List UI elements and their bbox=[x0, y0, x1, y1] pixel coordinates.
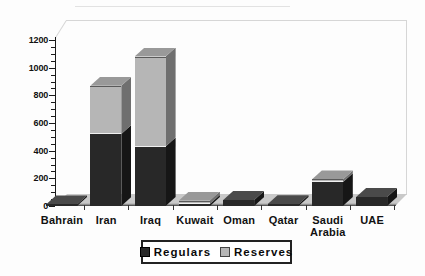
y-minor-tick bbox=[51, 82, 55, 83]
bar-iraq-reserves-front bbox=[135, 57, 166, 147]
y-tick-label: 1000 bbox=[9, 63, 48, 73]
y-minor-tick bbox=[51, 158, 55, 159]
x-category-tick bbox=[217, 205, 218, 210]
y-minor-tick bbox=[51, 116, 55, 117]
bar-kuwait-regulars-front bbox=[179, 204, 210, 206]
bar-iran-reserves-side bbox=[121, 77, 131, 134]
legend-item-reserves: Reserves bbox=[220, 246, 293, 258]
x-category-tick bbox=[306, 205, 307, 210]
y-major-tick bbox=[49, 40, 55, 41]
y-minor-tick bbox=[51, 165, 55, 166]
bar-oman-regulars-front bbox=[223, 200, 254, 206]
bar-bahrain-regulars-front bbox=[46, 204, 77, 206]
plot-area: 020040060080010001200BahrainIranIraqKuwa… bbox=[0, 0, 425, 276]
x-category-tick bbox=[394, 205, 395, 210]
legend-label-reserves: Reserves bbox=[234, 246, 293, 258]
y-major-tick bbox=[49, 68, 55, 69]
y-major-tick bbox=[49, 206, 55, 207]
y-minor-tick bbox=[51, 137, 55, 138]
legend-item-regulars: Regulars bbox=[140, 246, 211, 258]
y-tick-label: 600 bbox=[9, 118, 48, 128]
bar-iraq-regulars-side bbox=[166, 138, 176, 206]
y-minor-tick bbox=[51, 171, 55, 172]
y-major-tick bbox=[49, 95, 55, 96]
y-minor-tick bbox=[51, 61, 55, 62]
y-minor-tick bbox=[51, 47, 55, 48]
y-minor-tick bbox=[51, 192, 55, 193]
x-label-uae: UAE bbox=[342, 214, 402, 226]
y-minor-tick bbox=[51, 185, 55, 186]
reserves-swatch-icon bbox=[220, 247, 230, 257]
bar-qatar-regulars-front bbox=[268, 204, 299, 206]
y-minor-tick bbox=[51, 144, 55, 145]
bar-uae-regulars-front bbox=[356, 197, 387, 206]
bar-iran-regulars-side bbox=[121, 125, 131, 206]
y-minor-tick bbox=[51, 109, 55, 110]
stacked-bar-chart-figure: 020040060080010001200BahrainIranIraqKuwa… bbox=[0, 0, 425, 276]
y-tick-label: 200 bbox=[9, 173, 48, 183]
x-category-tick bbox=[350, 205, 351, 210]
bar-iran-reserves-front bbox=[90, 86, 121, 134]
legend-label-regulars: Regulars bbox=[154, 246, 211, 258]
y-minor-tick bbox=[51, 88, 55, 89]
x-category-tick bbox=[173, 205, 174, 210]
bar-iran-regulars-front bbox=[90, 134, 121, 206]
y-major-tick bbox=[49, 178, 55, 179]
regulars-swatch-icon bbox=[140, 247, 150, 257]
legend: Regulars Reserves bbox=[141, 240, 292, 264]
x-category-tick bbox=[261, 205, 262, 210]
y-tick-label: 400 bbox=[9, 146, 48, 156]
y-minor-tick bbox=[51, 75, 55, 76]
y-major-tick bbox=[49, 123, 55, 124]
y-tick-label: 0 bbox=[9, 201, 48, 211]
y-major-tick bbox=[49, 151, 55, 152]
y-minor-tick bbox=[51, 54, 55, 55]
y-tick-label: 800 bbox=[9, 90, 48, 100]
y-minor-tick bbox=[51, 102, 55, 103]
bar-iraq-reserves-side bbox=[166, 48, 176, 147]
bar-bahrain-top-face bbox=[46, 195, 87, 204]
x-category-tick bbox=[128, 205, 129, 210]
y-minor-tick bbox=[51, 130, 55, 131]
bar-iraq-regulars-front bbox=[135, 147, 166, 206]
x-category-tick bbox=[84, 205, 85, 210]
bar-saudi-arabia-regulars-front bbox=[312, 182, 343, 206]
bar-qatar-top-face bbox=[268, 195, 309, 204]
y-tick-label: 1200 bbox=[9, 35, 48, 45]
